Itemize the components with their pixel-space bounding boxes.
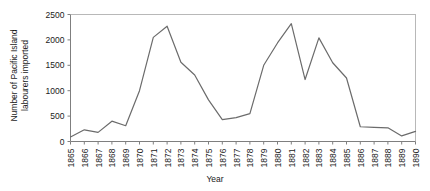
x-axis-title: Year bbox=[0, 174, 430, 184]
x-tick-label: 1887 bbox=[370, 148, 380, 167]
x-tick-label: 1868 bbox=[107, 148, 117, 167]
y-tick-label: 2500 bbox=[46, 10, 65, 20]
y-tick-label: 1500 bbox=[46, 60, 65, 70]
y-axis-tick-labels: 05001000150020002500 bbox=[46, 10, 65, 147]
x-tick-label: 1882 bbox=[301, 148, 311, 167]
x-tick-label: 1874 bbox=[190, 148, 200, 167]
x-tick-label: 1888 bbox=[383, 148, 393, 167]
plot-frame bbox=[71, 15, 416, 142]
x-tick-label: 1884 bbox=[328, 148, 338, 167]
line-chart: Number of Pacific Island labourers impor… bbox=[0, 0, 430, 191]
x-tick-label: 1878 bbox=[245, 148, 255, 167]
x-tick-label: 1880 bbox=[273, 148, 283, 167]
x-tick-label: 1875 bbox=[204, 148, 214, 167]
y-tick-label: 500 bbox=[50, 111, 64, 121]
x-tick-label: 1871 bbox=[149, 148, 159, 167]
x-tick-label: 1889 bbox=[397, 148, 407, 167]
x-axis-tick-labels: 1865186618671868186918701871187218731874… bbox=[66, 148, 421, 167]
x-tick-label: 1877 bbox=[232, 148, 242, 167]
x-tick-label: 1867 bbox=[94, 148, 104, 167]
x-tick-label: 1879 bbox=[259, 148, 269, 167]
plot-area: 05001000150020002500 1865186618671868186… bbox=[0, 0, 430, 191]
x-tick-label: 1876 bbox=[218, 148, 228, 167]
x-tick-label: 1890 bbox=[411, 148, 421, 167]
x-tick-label: 1883 bbox=[314, 148, 324, 167]
y-axis-title-line2: labourers imported bbox=[19, 40, 29, 111]
y-tick-label: 0 bbox=[60, 137, 65, 147]
x-tick-label: 1873 bbox=[176, 148, 186, 167]
y-tick-label: 2000 bbox=[46, 35, 65, 45]
y-tick-label: 1000 bbox=[46, 86, 65, 96]
x-tick-label: 1872 bbox=[163, 148, 173, 167]
data-series-line bbox=[71, 24, 416, 137]
x-tick-label: 1869 bbox=[121, 148, 131, 167]
y-axis-title: Number of Pacific Island labourers impor… bbox=[2, 0, 36, 150]
x-tick-label: 1866 bbox=[80, 148, 90, 167]
x-tick-label: 1870 bbox=[135, 148, 145, 167]
x-tick-label: 1885 bbox=[342, 148, 352, 167]
x-tick-label: 1865 bbox=[66, 148, 76, 167]
y-axis-title-line1: Number of Pacific Island bbox=[9, 29, 19, 121]
x-tick-label: 1881 bbox=[287, 148, 297, 167]
x-tick-label: 1886 bbox=[356, 148, 366, 167]
